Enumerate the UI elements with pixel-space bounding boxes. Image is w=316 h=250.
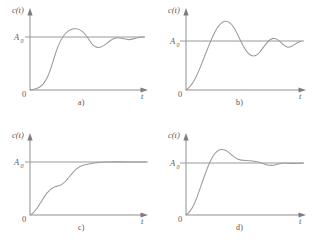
- y-axis-label-b: c(t): [168, 5, 180, 15]
- y-axis-label-a: c(t): [12, 5, 24, 15]
- response-curve-a: [30, 29, 144, 90]
- caption-c: c): [78, 223, 85, 232]
- x-axis-label-c: t: [141, 216, 144, 226]
- y-axis-arrowhead-c: [27, 133, 32, 141]
- origin-label-a: 0: [22, 89, 26, 99]
- panel-a: c(t) A 0 0 t a): [0, 0, 158, 125]
- y-axis-label-c: c(t): [12, 130, 24, 140]
- figure-four-step-responses: c(t) A 0 0 t a) c(t) A 0 0 t b): [0, 0, 316, 250]
- steady-state-subscript-a: 0: [21, 38, 24, 44]
- caption-a: a): [78, 98, 85, 107]
- caption-d: d): [236, 223, 243, 232]
- x-axis-label-a: t: [141, 91, 144, 101]
- steady-state-subscript-c: 0: [21, 163, 24, 169]
- response-curve-d: [186, 149, 303, 215]
- y-axis-arrowhead-b: [183, 8, 188, 16]
- origin-label-d: 0: [178, 214, 182, 224]
- y-axis-label-d: c(t): [168, 130, 180, 140]
- caption-b: b): [236, 98, 243, 107]
- origin-label-c: 0: [22, 214, 26, 224]
- x-axis-label-d: t: [299, 216, 302, 226]
- panel-d: c(t) A 0 0 t d): [158, 125, 316, 250]
- panel-c: c(t) A 0 0 t c): [0, 125, 158, 250]
- y-axis-arrowhead-a: [27, 8, 32, 16]
- response-curve-c: [30, 162, 146, 215]
- x-axis-label-b: t: [299, 91, 302, 101]
- steady-state-label-b: A: [169, 36, 176, 46]
- origin-label-b: 0: [178, 89, 182, 99]
- y-axis-arrowhead-d: [183, 133, 188, 141]
- steady-state-label-c: A: [13, 157, 20, 167]
- response-curve-b: [186, 21, 301, 90]
- panel-b: c(t) A 0 0 t b): [158, 0, 316, 125]
- steady-state-label-d: A: [169, 158, 176, 168]
- steady-state-subscript-d: 0: [177, 164, 180, 170]
- steady-state-label-a: A: [13, 32, 20, 42]
- steady-state-subscript-b: 0: [177, 42, 180, 48]
